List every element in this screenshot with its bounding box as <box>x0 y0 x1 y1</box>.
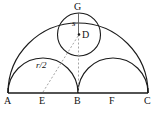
point-label-g: G <box>74 2 81 12</box>
point-label-a: A <box>4 96 11 106</box>
point-label-c: C <box>144 96 151 106</box>
segment-label-s: s <box>72 19 76 28</box>
point-label-b: B <box>74 96 81 106</box>
point-label-d: D <box>82 30 89 40</box>
right-semicircle-arc <box>78 58 148 93</box>
point-label-e: E <box>39 96 45 106</box>
point-label-f: F <box>109 96 115 106</box>
dashed-segment-ed <box>43 35 79 93</box>
large-semicircle-arc <box>8 23 148 93</box>
segment-label-r-half: r/2 <box>36 61 47 70</box>
geometry-figure: A E B F C G D s r/2 <box>0 0 158 113</box>
point-dot-d <box>78 33 81 36</box>
